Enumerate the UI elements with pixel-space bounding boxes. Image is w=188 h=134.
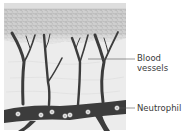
label-line: Neutrophil: [137, 103, 181, 113]
label-line: vessels: [137, 63, 168, 73]
label-line: Blood: [137, 53, 168, 63]
diagram: Blood vessels Neutrophil: [0, 0, 188, 134]
label-neutrophil: Neutrophil: [137, 103, 181, 113]
label-blood-vessels: Blood vessels: [137, 53, 168, 73]
epidermis: [4, 3, 126, 44]
